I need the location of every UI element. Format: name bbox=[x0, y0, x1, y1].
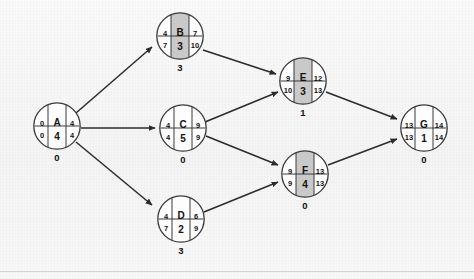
edge-a-to-b bbox=[76, 47, 152, 113]
node-g-slack: 0 bbox=[400, 154, 448, 165]
node-e[interactable]: 9121013E31 bbox=[279, 57, 327, 105]
dependency-arrows bbox=[76, 47, 397, 212]
node-b[interactable]: 47710B33 bbox=[156, 12, 204, 60]
node-g[interactable]: 13141314G10 bbox=[400, 104, 448, 152]
node-b-slack: 3 bbox=[156, 62, 204, 73]
node-c-slack: 0 bbox=[159, 154, 207, 165]
edge-e-to-g bbox=[326, 92, 397, 119]
node-e-slack: 1 bbox=[279, 107, 327, 118]
edge-a-to-d bbox=[76, 142, 152, 205]
node-circle-f bbox=[281, 150, 329, 198]
node-circle-g bbox=[400, 104, 448, 152]
node-d-slack: 3 bbox=[157, 245, 205, 256]
edge-c-to-e bbox=[205, 92, 278, 122]
node-d[interactable]: 4679D23 bbox=[157, 195, 205, 243]
node-circle-e bbox=[279, 57, 327, 105]
node-f-slack: 0 bbox=[281, 200, 329, 211]
node-circle-b bbox=[156, 12, 204, 60]
node-c[interactable]: 4949C50 bbox=[159, 104, 207, 152]
edge-d-to-f bbox=[204, 182, 278, 212]
node-circle-d bbox=[157, 195, 205, 243]
edge-c-to-f bbox=[206, 136, 278, 165]
edge-f-to-g bbox=[328, 139, 397, 165]
bottom-divider-rule bbox=[0, 271, 474, 272]
edge-b-to-e bbox=[203, 50, 276, 74]
node-a-slack: 0 bbox=[33, 152, 81, 163]
node-circle-a bbox=[33, 102, 81, 150]
node-circle-c bbox=[159, 104, 207, 152]
project-network-diagram: 0404A4047710B334949C504679D239121013E319… bbox=[0, 0, 474, 279]
node-f[interactable]: 913913F40 bbox=[281, 150, 329, 198]
node-a[interactable]: 0404A40 bbox=[33, 102, 81, 150]
